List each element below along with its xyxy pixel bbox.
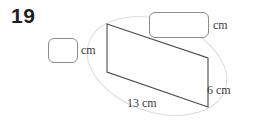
answer-box-slant-height[interactable] (48, 38, 78, 63)
worksheet-question-canvas: 19 cm cm 13 cm 6 cm (0, 0, 255, 120)
unit-label-slant-height: cm (81, 43, 96, 57)
dimension-label-right-side: 6 cm (207, 83, 231, 97)
unit-label-top-length: cm (213, 18, 228, 32)
answer-box-top-length[interactable] (149, 12, 209, 38)
dimension-label-base: 13 cm (127, 96, 157, 110)
